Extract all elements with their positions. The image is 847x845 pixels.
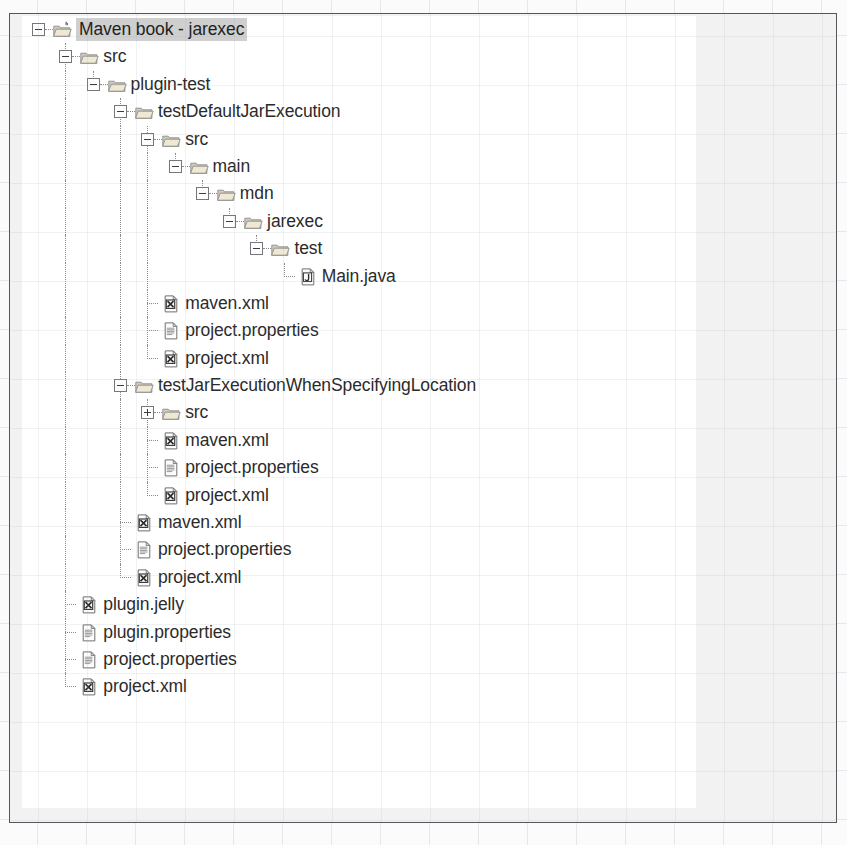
tree-item[interactable]: maven.xml (22, 290, 696, 317)
tree-item-label[interactable]: project.xml (158, 566, 242, 589)
tree-item[interactable]: project.properties (22, 536, 696, 563)
folder-icon (135, 377, 154, 395)
collapse-toggle-icon[interactable] (32, 23, 45, 36)
tree-item-label[interactable]: project.properties (103, 648, 236, 671)
xml-file-icon (162, 350, 181, 368)
tree-connector (154, 412, 162, 414)
tree-guide-line (65, 126, 67, 153)
tree-item[interactable]: project.xml (22, 673, 696, 700)
collapse-toggle-icon[interactable] (114, 379, 127, 392)
tree-guide-line (65, 345, 67, 372)
collapse-toggle-icon[interactable] (114, 105, 127, 118)
tree-item[interactable]: Main.java (22, 263, 696, 290)
tree-item[interactable]: maven.xml (22, 509, 696, 536)
tree-guide-line (120, 208, 122, 235)
tree-guide-line (147, 180, 149, 207)
tree-guide-line (147, 263, 149, 290)
tree-item-label[interactable]: plugin.properties (103, 621, 231, 644)
tree-item-label[interactable]: project.xml (185, 347, 269, 370)
tree-connector (65, 632, 76, 634)
tree-guide-line (120, 482, 122, 509)
tree-item[interactable]: project.properties (22, 317, 696, 344)
tree-item-label[interactable]: project.xml (185, 484, 269, 507)
tree-item-label[interactable]: plugin-test (131, 73, 211, 96)
expand-toggle-icon[interactable] (141, 406, 154, 419)
collapse-toggle-icon[interactable] (87, 78, 100, 91)
properties-file-icon (135, 541, 154, 559)
folder-icon (108, 76, 127, 94)
tree-item[interactable]: maven.xml (22, 427, 696, 454)
tree-guide-line (65, 454, 67, 481)
tree-guide-line (120, 454, 122, 481)
tree-item-label[interactable]: project.properties (185, 319, 318, 342)
tree-connector (120, 522, 131, 524)
tree-guide-line (120, 345, 122, 372)
java-file-icon (299, 268, 318, 286)
tree-item-label[interactable]: maven.xml (158, 511, 242, 534)
tree-item-label[interactable]: project.properties (185, 456, 318, 479)
tree-connector (45, 29, 53, 31)
tree-item[interactable]: src (22, 43, 696, 70)
tree-guide-line (65, 290, 67, 317)
project-tree[interactable]: Maven book - jarexecsrcplugin-testtestDe… (22, 16, 696, 701)
package-explorer-panel[interactable]: Maven book - jarexecsrcplugin-testtestDe… (22, 16, 696, 808)
tree-item[interactable]: plugin.jelly (22, 591, 696, 618)
tree-item-label[interactable]: plugin.jelly (103, 593, 184, 616)
tree-item-label[interactable]: mdn (240, 182, 274, 205)
tree-guide-line (120, 427, 122, 454)
tree-guide-line (65, 263, 67, 290)
collapse-toggle-icon[interactable] (196, 187, 209, 200)
tree-item-label[interactable]: testJarExecutionWhenSpecifyingLocation (158, 374, 476, 397)
tree-connector (236, 221, 244, 223)
tree-item-label[interactable]: Main.java (322, 265, 396, 288)
tree-item[interactable]: src (22, 126, 696, 153)
tree-item[interactable]: project.xml (22, 482, 696, 509)
xml-file-icon (135, 514, 154, 532)
tree-connector (100, 84, 108, 86)
tree-item[interactable]: src (22, 399, 696, 426)
tree-item[interactable]: plugin-test (22, 71, 696, 98)
tree-connector (127, 385, 135, 387)
tree-item-label[interactable]: jarexec (267, 210, 323, 233)
tree-item-label[interactable]: Maven book - jarexec (76, 18, 247, 41)
collapse-toggle-icon[interactable] (169, 160, 182, 173)
collapse-toggle-icon[interactable] (250, 242, 263, 255)
tree-item[interactable]: project.properties (22, 454, 696, 481)
tree-item-label[interactable]: test (294, 237, 322, 260)
collapse-toggle-icon[interactable] (59, 50, 72, 63)
tree-elbow-line (147, 482, 149, 496)
tree-guide-line (65, 235, 67, 262)
collapse-toggle-icon[interactable] (223, 215, 236, 228)
collapse-toggle-icon[interactable] (141, 133, 154, 146)
tree-connector (147, 495, 158, 497)
tree-elbow-line (284, 263, 286, 277)
tree-item-label[interactable]: src (185, 128, 208, 151)
tree-item[interactable]: project.xml (22, 564, 696, 591)
tree-item[interactable]: project.properties (22, 646, 696, 673)
tree-guide-line (65, 98, 67, 125)
tree-item-label[interactable]: maven.xml (185, 292, 269, 315)
tree-item[interactable]: jarexec (22, 208, 696, 235)
tree-item-label[interactable]: project.properties (158, 538, 291, 561)
tree-item[interactable]: mdn (22, 180, 696, 207)
figure-frame: Maven book - jarexecsrcplugin-testtestDe… (9, 13, 837, 823)
tree-item-label[interactable]: maven.xml (185, 429, 269, 452)
tree-item[interactable]: plugin.properties (22, 619, 696, 646)
tree-item-label[interactable]: main (213, 155, 251, 178)
tree-guide-line (65, 180, 67, 207)
tree-guide-line (120, 290, 122, 317)
tree-connector (120, 549, 131, 551)
tree-connector (65, 686, 76, 688)
tree-item-label[interactable]: testDefaultJarExecution (158, 100, 341, 123)
tree-item[interactable]: test (22, 235, 696, 262)
tree-item[interactable]: testDefaultJarExecution (22, 98, 696, 125)
tree-item-label[interactable]: project.xml (103, 675, 187, 698)
tree-item-label[interactable]: src (103, 45, 126, 68)
tree-guide-line (147, 153, 149, 180)
tree-item[interactable]: testJarExecutionWhenSpecifyingLocation (22, 372, 696, 399)
tree-item[interactable]: main (22, 153, 696, 180)
xml-file-icon (162, 487, 181, 505)
tree-item[interactable]: project.xml (22, 345, 696, 372)
tree-item-label[interactable]: src (185, 401, 208, 424)
tree-item[interactable]: Maven book - jarexec (22, 16, 696, 43)
